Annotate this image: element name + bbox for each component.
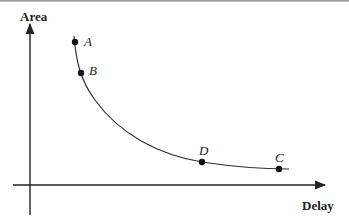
label-d: D	[198, 143, 209, 158]
label-a: A	[83, 34, 92, 49]
point-c	[276, 166, 282, 172]
tradeoff-curve	[74, 36, 289, 169]
x-axis-label: Delay	[302, 198, 334, 213]
point-b	[78, 70, 84, 76]
point-a	[72, 39, 78, 45]
label-b: B	[89, 63, 97, 78]
label-c: C	[275, 150, 284, 165]
y-axis-label: Area	[20, 9, 48, 24]
point-d	[199, 159, 205, 165]
area-delay-diagram: A B D C Area Delay	[0, 0, 349, 220]
